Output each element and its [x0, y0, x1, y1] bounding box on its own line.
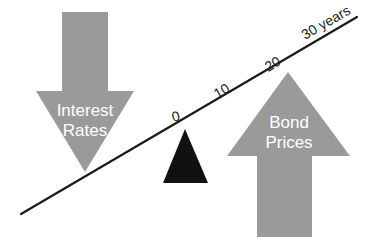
down-arrow-shape [36, 12, 134, 172]
down-arrow-label-line1: Interest [57, 101, 114, 120]
up-arrow-label-line1: Bond [269, 113, 309, 132]
up-arrow-label-line2: Prices [265, 133, 312, 152]
diagram-canvas: Interest Rates Bond Prices 0 10 20 30 ye… [0, 0, 390, 251]
axis-tick-0: 0 [170, 107, 182, 125]
seesaw-diagram-svg: Interest Rates Bond Prices 0 10 20 30 ye… [0, 0, 390, 251]
up-arrow-shape [227, 72, 350, 237]
fulcrum-triangle [163, 129, 208, 183]
bond-prices-up-arrow: Bond Prices [227, 72, 350, 237]
axis-tick-10: 10 [211, 80, 233, 102]
interest-rates-down-arrow: Interest Rates [36, 12, 134, 172]
down-arrow-label-line2: Rates [63, 121, 107, 140]
